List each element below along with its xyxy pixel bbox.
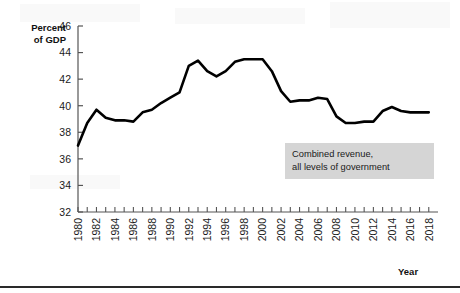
svg-text:1980: 1980 — [72, 218, 84, 242]
svg-text:2008: 2008 — [330, 218, 342, 242]
svg-text:34: 34 — [59, 179, 71, 191]
svg-text:38: 38 — [59, 126, 71, 138]
svg-text:2016: 2016 — [404, 218, 416, 242]
svg-text:36: 36 — [59, 153, 71, 165]
footer-rule — [0, 286, 460, 288]
annotation-line-2: all levels of government — [292, 161, 427, 174]
svg-text:1994: 1994 — [201, 218, 213, 242]
svg-text:1990: 1990 — [164, 218, 176, 242]
svg-text:42: 42 — [59, 73, 71, 85]
chart-annotation: Combined revenue, all levels of governme… — [285, 143, 434, 179]
svg-text:1986: 1986 — [127, 218, 139, 242]
svg-text:2006: 2006 — [312, 218, 324, 242]
svg-text:1992: 1992 — [183, 218, 195, 242]
axis-lines — [78, 26, 438, 212]
svg-text:2012: 2012 — [367, 218, 379, 242]
x-axis-tick-labels: 1980198219841986198819901992199419961998… — [72, 218, 435, 242]
svg-text:2000: 2000 — [256, 218, 268, 242]
svg-text:1988: 1988 — [146, 218, 158, 242]
svg-text:40: 40 — [59, 100, 71, 112]
data-series-line — [78, 59, 429, 145]
svg-text:2002: 2002 — [275, 218, 287, 242]
svg-text:1984: 1984 — [109, 218, 121, 242]
x-axis-ticks — [78, 207, 429, 212]
svg-text:46: 46 — [59, 20, 71, 32]
svg-text:32: 32 — [59, 206, 71, 218]
svg-text:2014: 2014 — [386, 218, 398, 242]
svg-text:2004: 2004 — [293, 218, 305, 242]
annotation-line-1: Combined revenue, — [292, 148, 427, 161]
x-axis-title: Year — [398, 266, 418, 277]
y-axis-ticks: 3234363840424446 — [59, 20, 83, 218]
svg-text:2010: 2010 — [349, 218, 361, 242]
chart-figure: Percent of GDP 3234363840424446 19801982… — [0, 0, 460, 293]
svg-text:1996: 1996 — [219, 218, 231, 242]
svg-text:1998: 1998 — [238, 218, 250, 242]
svg-text:1982: 1982 — [90, 218, 102, 242]
svg-text:2018: 2018 — [423, 218, 435, 242]
svg-text:44: 44 — [59, 46, 71, 58]
